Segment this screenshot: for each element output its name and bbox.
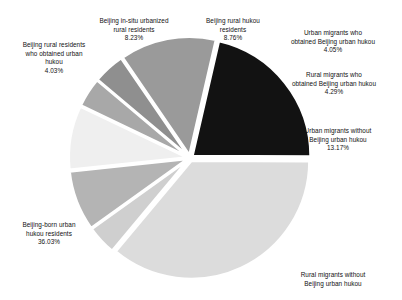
slice-label-percent: 8.76% [190,34,276,43]
slice-label-percent: 8.23% [78,34,190,43]
slice-label-percent: 4.03% [2,67,106,76]
slice-label-percent: 13.17% [276,144,400,153]
slice-label-text: Beijing rural residents who obtained urb… [23,41,86,66]
slice-label-urban-migrants-obtained-beijing-urban-hukou: Urban migrants who obtained Beijing urba… [266,20,400,64]
slice-label-beijing-born-urban-hukou-residents: Beijing-born urban hukou residents 36.03… [1,212,97,256]
slice-label-percent: 4.05% [266,46,400,55]
slice-label-percent: 4.29% [268,88,400,97]
slice-label-percent: 36.03% [1,238,97,247]
slice-label-beijing-rural-hukou-residents: Beijing rural hukou residents 8.76% [190,8,276,52]
slice-label-rural-migrants-obtained-beijing-urban-hukou: Rural migrants who obtained Beijing urba… [268,62,400,106]
slice-label-text: Beijing rural hukou residents [206,17,260,33]
pie-chart: Beijing rural residents who obtained urb… [0,0,402,300]
slice-label-text: Urban migrants without Beijing urban huk… [305,127,372,143]
slice-label-beijing-in-situ-urbanized-rural-residents: Beijing in-situ urbanized rural resident… [78,8,190,52]
slice-label-urban-migrants-without-beijing-urban-hukou: Urban migrants without Beijing urban huk… [276,118,400,162]
slice-label-text: Urban migrants who obtained Beijing urba… [291,29,375,45]
slice-label-rural-migrants-without-beijing-urban-hukou: Rural migrants without Beijing urban huk… [268,262,398,297]
slice-label-text: Rural migrants who obtained Beijing urba… [292,71,376,87]
slice-label-text: Beijing in-situ urbanized rural resident… [99,17,168,33]
slice-label-text: Rural migrants without Beijing urban huk… [301,271,366,287]
slice-label-text: Beijing-born urban hukou residents [22,221,75,237]
